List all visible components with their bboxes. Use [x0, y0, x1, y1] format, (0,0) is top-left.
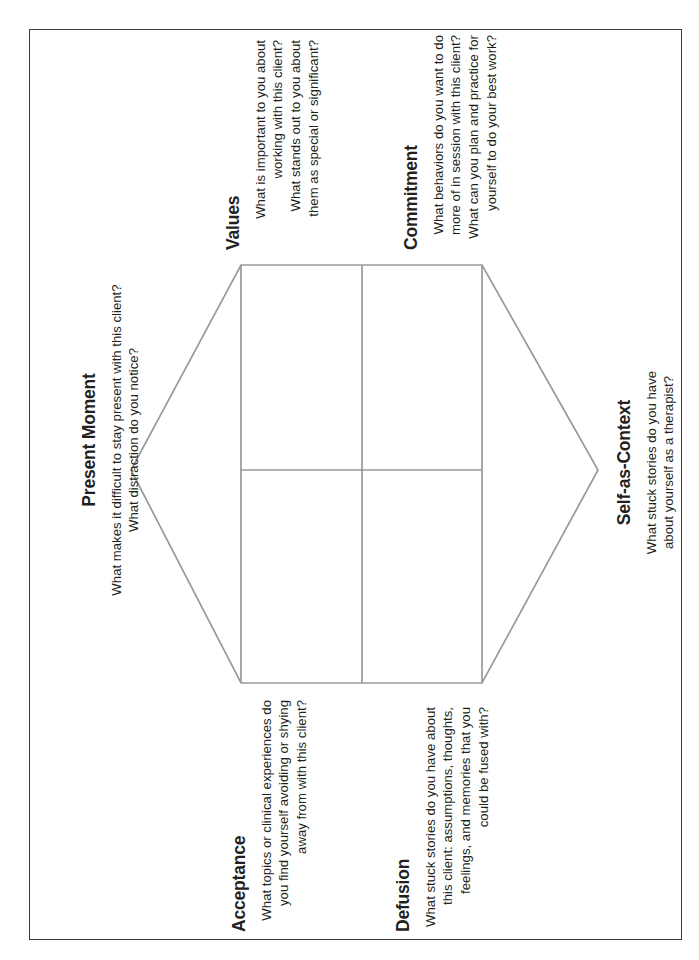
acceptance-line-2: you find yourself avoiding or shying — [275, 700, 293, 932]
process-values: Values What is important to you about wo… — [222, 40, 323, 250]
defusion-line-4: could be fused with? — [475, 707, 493, 932]
values-body: What is important to you about working w… — [252, 40, 323, 250]
present-moment-line-1: What makes it difficult to stay present … — [108, 280, 126, 600]
commitment-line-4: yourself to do your best work? — [483, 35, 501, 250]
commitment-line-2: more of in session with this client? — [447, 35, 465, 250]
hexaflex-svg — [125, 258, 605, 690]
process-present-moment: Present Moment What makes it difficult t… — [78, 280, 143, 600]
commitment-line-3: What can you plan and practice for — [465, 35, 483, 250]
acceptance-heading: Acceptance — [228, 836, 251, 932]
worksheet-page: Values What is important to you about wo… — [0, 0, 699, 960]
present-moment-line-2: What distraction do you notice? — [125, 280, 143, 600]
defusion-line-2: this client: assumptions, thoughts, — [439, 707, 457, 932]
process-commitment: Commitment What behaviors do you want to… — [400, 35, 501, 250]
defusion-line-3: feelings, and memories that you — [457, 707, 475, 932]
present-moment-heading: Present Moment — [78, 373, 101, 506]
hexagon-outline — [131, 265, 598, 683]
defusion-heading: Defusion — [392, 859, 415, 932]
defusion-body: What stuck stories do you have about thi… — [422, 707, 493, 932]
process-self-as-context: Self-as-Context What stuck stories do yo… — [613, 345, 678, 580]
defusion-line-1: What stuck stories do you have about — [422, 707, 440, 932]
values-line-2: working with this client? — [269, 40, 287, 250]
self-as-context-line-1: What stuck stories do you have — [643, 345, 661, 580]
commitment-line-1: What behaviors do you want to do — [430, 35, 448, 250]
values-line-3: What stands out to you about — [287, 40, 305, 250]
values-line-1: What is important to you about — [252, 40, 270, 250]
present-moment-body: What makes it difficult to stay present … — [108, 280, 143, 600]
commitment-body: What behaviors do you want to do more of… — [430, 35, 501, 250]
hexaflex-diagram — [125, 258, 605, 690]
self-as-context-line-2: about yourself as a therapist? — [660, 345, 678, 580]
values-heading: Values — [222, 196, 245, 250]
process-defusion: Defusion What stuck stories do you have … — [392, 707, 493, 932]
values-line-4: them as special or significant? — [305, 40, 323, 250]
acceptance-line-1: What topics or clinical experiences do — [258, 700, 276, 932]
acceptance-body: What topics or clinical experiences do y… — [258, 700, 311, 932]
acceptance-line-3: away from with this client? — [293, 700, 311, 932]
self-as-context-body: What stuck stories do you have about you… — [643, 345, 678, 580]
process-acceptance: Acceptance What topics or clinical exper… — [228, 700, 311, 932]
self-as-context-heading: Self-as-Context — [613, 400, 636, 525]
commitment-heading: Commitment — [400, 145, 423, 250]
